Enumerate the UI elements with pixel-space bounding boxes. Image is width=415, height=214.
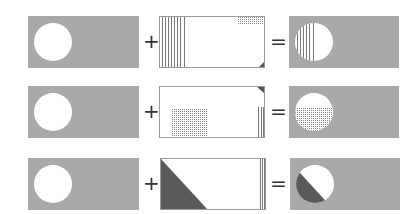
equals-operator: = <box>270 172 287 194</box>
plus-operator: + <box>143 100 160 122</box>
source-image <box>28 16 139 68</box>
equation-row-2: + = <box>0 86 415 138</box>
mask-image <box>159 86 265 138</box>
equation-row-1: + = <box>0 16 415 68</box>
plus-operator: + <box>143 172 160 194</box>
equals-operator: = <box>270 100 287 122</box>
equals-operator: = <box>270 30 287 52</box>
equation-row-3: + = <box>0 158 415 210</box>
plus-operator: + <box>143 30 160 52</box>
result-image <box>289 16 399 68</box>
mask-image <box>159 16 265 68</box>
source-image <box>28 86 139 138</box>
result-image <box>290 158 400 210</box>
source-image <box>28 158 139 210</box>
mask-image <box>160 158 266 210</box>
result-image <box>289 86 399 138</box>
